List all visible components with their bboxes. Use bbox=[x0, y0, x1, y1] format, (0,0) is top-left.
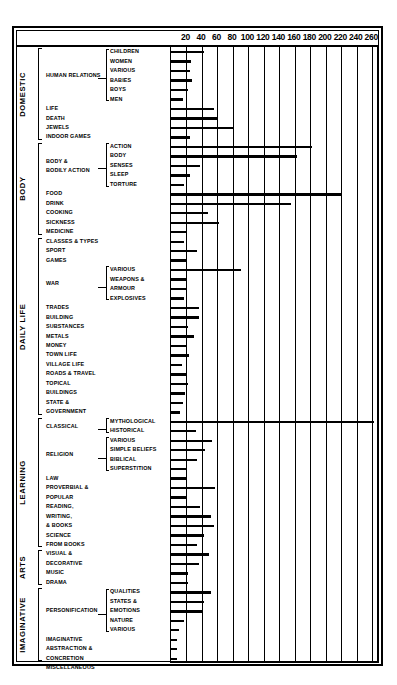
x-tick-label: 80 bbox=[227, 32, 236, 43]
connector-stem bbox=[98, 614, 106, 615]
row-label: DRAMA bbox=[46, 579, 67, 585]
row-label: CHILDREN bbox=[110, 48, 139, 54]
sub-bracket bbox=[106, 266, 109, 300]
group-bracket bbox=[38, 238, 42, 415]
bar bbox=[171, 278, 186, 280]
row-label: DRINK bbox=[46, 200, 64, 206]
row-label: SPORT bbox=[46, 247, 65, 253]
group-bracket bbox=[38, 550, 42, 585]
gridline bbox=[264, 47, 265, 663]
row-label: MISCELLANEOUS bbox=[46, 664, 95, 670]
row-label: SENSES bbox=[110, 162, 133, 168]
row-label: STATES & bbox=[110, 598, 137, 604]
group-mid-label: HUMAN RELATIONS bbox=[46, 72, 101, 78]
row-label: EMOTIONS bbox=[110, 607, 140, 613]
row-label: VARIOUS bbox=[110, 67, 135, 73]
bar bbox=[171, 582, 188, 584]
bar bbox=[171, 241, 184, 243]
row-label: CLASSES & TYPES bbox=[46, 238, 98, 244]
bar bbox=[171, 364, 182, 366]
gridline bbox=[341, 47, 342, 663]
row-label: VILLAGE LIFE bbox=[46, 361, 84, 367]
row-label: SIMPLE BELIEFS bbox=[110, 446, 156, 452]
row-label: SUPERSTITION bbox=[110, 465, 152, 471]
bar bbox=[171, 440, 212, 442]
group-bracket bbox=[38, 48, 42, 140]
x-tick-label: 120 bbox=[256, 32, 269, 43]
group-bracket bbox=[38, 588, 42, 661]
bar bbox=[171, 288, 186, 290]
bar bbox=[171, 477, 186, 479]
row-label: SUBSTANCES bbox=[46, 323, 84, 329]
x-tick-label: 60 bbox=[212, 32, 221, 43]
connector-stem bbox=[98, 458, 106, 459]
row-label: & BOOKS bbox=[46, 522, 72, 528]
bar bbox=[171, 155, 297, 157]
row-label: BABIES bbox=[110, 77, 131, 83]
row-label-column: CHILDRENWOMENVARIOUSBABIESBOYSMENLIFEDEA… bbox=[16, 47, 170, 663]
gridline bbox=[279, 47, 280, 663]
bar bbox=[171, 383, 188, 385]
row-label: ROADS & TRAVEL bbox=[46, 370, 96, 376]
bar bbox=[171, 203, 291, 205]
row-label: WRITING, bbox=[46, 513, 72, 519]
group-mid-label: CLASSICAL bbox=[46, 423, 78, 429]
x-tick-label: 160 bbox=[287, 32, 300, 43]
sub-bracket bbox=[106, 589, 109, 632]
plot-area bbox=[170, 47, 379, 663]
bar bbox=[171, 193, 341, 195]
row-label: VARIOUS bbox=[110, 437, 135, 443]
bar-row bbox=[171, 663, 380, 674]
row-label: INDOOR GAMES bbox=[46, 133, 91, 139]
bar bbox=[171, 639, 177, 641]
gridline bbox=[372, 47, 373, 663]
connector-stem bbox=[98, 168, 106, 169]
gridline bbox=[248, 47, 249, 663]
gridline bbox=[357, 47, 358, 663]
row-label: ACTION bbox=[110, 143, 132, 149]
bar bbox=[171, 411, 180, 413]
sub-bracket bbox=[106, 143, 109, 186]
bar bbox=[171, 165, 200, 167]
sub-bracket bbox=[106, 437, 109, 471]
group-mid-label: BODILY ACTION bbox=[46, 167, 90, 173]
gridline bbox=[310, 47, 311, 663]
group-name: LEARNING bbox=[18, 418, 27, 548]
gridline bbox=[202, 47, 203, 663]
group-name: DAILY LIFE bbox=[18, 238, 27, 415]
chart-page: 20406080100120140160180200220240260 CHIL… bbox=[0, 0, 397, 685]
row-label: MONEY bbox=[46, 342, 67, 348]
x-tick-label: 220 bbox=[334, 32, 347, 43]
row-label: VARIOUS bbox=[110, 266, 135, 272]
bar bbox=[171, 259, 186, 261]
bar bbox=[171, 468, 187, 470]
bar bbox=[171, 563, 199, 565]
row-label: POPULAR bbox=[46, 494, 73, 500]
row-label: COOKING bbox=[46, 209, 73, 215]
bar bbox=[171, 496, 186, 498]
bar bbox=[171, 629, 179, 631]
row-label: STATE & bbox=[46, 399, 69, 405]
bar bbox=[171, 544, 197, 546]
bar bbox=[171, 98, 183, 100]
connector-stem bbox=[98, 287, 106, 288]
row-label: FROM BOOKS bbox=[46, 541, 85, 547]
row-label: MEDICINE bbox=[46, 228, 74, 234]
bar bbox=[171, 515, 211, 517]
bar bbox=[171, 553, 209, 555]
bar bbox=[171, 108, 214, 110]
row-label: BOYS bbox=[110, 86, 126, 92]
row-label: GOVERNMENT bbox=[46, 408, 86, 414]
row-label: VARIOUS bbox=[110, 626, 135, 632]
row-label: BODY bbox=[110, 152, 126, 158]
group-bracket bbox=[38, 418, 42, 548]
bar bbox=[171, 117, 217, 119]
bar bbox=[171, 449, 205, 451]
row-label: NATURE bbox=[110, 617, 133, 623]
x-tick-label: 40 bbox=[197, 32, 206, 43]
x-tick-label: 100 bbox=[241, 32, 254, 43]
row-label: MUSIC bbox=[46, 569, 64, 575]
row-label: WEAPONS & bbox=[110, 276, 145, 282]
x-axis-scale: 20406080100120140160180200220240260 bbox=[16, 30, 379, 47]
row-label: VISUAL & bbox=[46, 550, 72, 556]
